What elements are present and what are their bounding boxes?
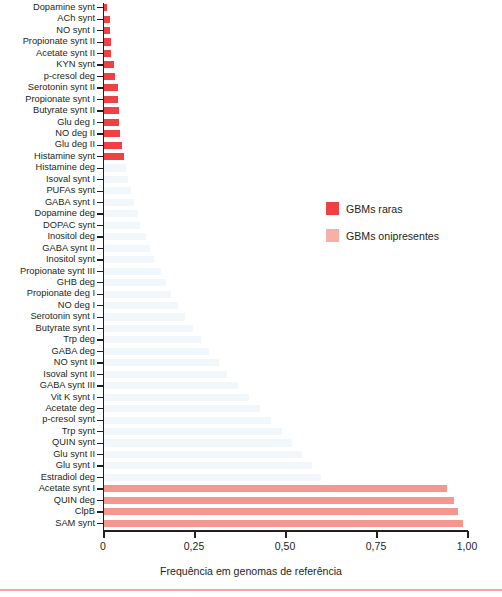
bar-row [103,519,467,528]
bar [103,199,134,206]
y-axis-tick-label: NO synt I [0,26,95,35]
y-axis-tick-label: QUIN synt [0,438,95,447]
y-axis-tick-mark [97,168,103,169]
y-axis-tick-label: Serotonin synt I [0,312,95,321]
y-axis-tick-mark [97,465,103,466]
y-axis-tick-mark [97,42,103,43]
y-axis-tick-label: ACh synt [0,14,95,23]
bar-row [103,438,467,447]
bar [103,394,249,401]
y-axis-tick-label: PUFAs synt [0,186,95,195]
y-axis-tick-label: Acetate synt I [0,484,95,493]
y-axis-tick-label: Butyrate synt II [0,106,95,115]
y-axis-tick-mark [97,374,103,375]
bar-row [103,484,467,493]
y-axis-tick-mark [97,64,103,65]
bar [103,84,118,91]
y-axis-tick-mark [97,317,103,318]
y-axis-tick-mark [97,397,103,398]
y-axis-tick-label: Glu deg I [0,118,95,127]
x-axis-tick-label: 0,50 [275,540,295,552]
bar [103,153,124,160]
y-axis-tick-label: Estradiol deg [0,473,95,482]
bar [103,336,201,343]
y-axis-tick-mark [97,420,103,421]
bar [103,142,122,149]
bar-row [103,255,467,264]
bar [103,405,260,412]
bar-row [103,49,467,58]
bar-row [103,14,467,23]
y-axis-tick-label: Propionate synt II [0,37,95,46]
y-axis-tick-mark [97,305,103,306]
bar [103,382,238,389]
y-axis-tick-mark [97,30,103,31]
bar-row [103,461,467,470]
y-axis-tick-label: GHB deg [0,278,95,287]
y-axis-tick-mark [97,202,103,203]
bar-row [103,106,467,115]
bar [103,176,128,183]
legend-swatch-icon-raras [326,202,339,215]
bar [103,279,166,286]
y-axis-tick-mark [97,19,103,20]
bar-row [103,358,467,367]
y-axis-tick-label: Dopamine deg [0,209,95,218]
chart-legend: GBMs raras GBMs onipresentes [326,202,439,256]
y-axis-tick-label: Histamine deg [0,163,95,172]
y-axis-tick-mark [97,7,103,8]
y-axis-tick-label: NO deg II [0,129,95,138]
bar [103,130,120,137]
bar-row [103,72,467,81]
bar [103,520,463,527]
x-axis-tick-label: 0 [100,540,106,552]
y-axis-tick-mark [97,351,103,352]
bar [103,417,271,424]
y-axis-tick-label: NO deg I [0,301,95,310]
x-axis-tick-mark [103,531,105,538]
y-axis-tick-label: Glu synt II [0,450,95,459]
bar-row [103,83,467,92]
plot-area [103,3,467,530]
y-axis-tick-mark [97,110,103,111]
bar-row [103,335,467,344]
bar-row [103,26,467,35]
bar [103,96,118,103]
y-axis-tick-label: Dopamine synt [0,3,95,12]
y-axis-tick-label: QUIN deg [0,496,95,505]
bar [103,245,150,252]
y-axis-tick-label: Glu deg II [0,140,95,149]
legend-item-gbms-onipresentes: GBMs onipresentes [326,229,439,242]
y-axis-tick-mark [97,191,103,192]
y-axis-tick-label: Trp synt [0,427,95,436]
x-axis-tick-mark [194,531,196,538]
bar-row [103,312,467,321]
bar [103,61,114,68]
y-axis-tick-mark [97,500,103,501]
bar [103,291,171,298]
bar [103,256,154,263]
bar [103,222,140,229]
bar [103,371,227,378]
bar [103,451,302,458]
bar-row [103,404,467,413]
bar [103,164,126,171]
bar [103,210,138,217]
y-axis-tick-label: Acetate deg [0,404,95,413]
bar-row [103,3,467,12]
y-axis-tick-mark [97,156,103,157]
bar [103,302,178,309]
bar-row [103,301,467,310]
y-axis-tick-mark [97,179,103,180]
bar-row [103,129,467,138]
y-axis-tick-mark [97,248,103,249]
bar-row [103,370,467,379]
bar [103,348,209,355]
y-axis-tick-mark [97,339,103,340]
y-axis-tick-mark [97,362,103,363]
bar [103,474,321,481]
y-axis-line [103,3,104,530]
y-axis-tick-label: ClpB [0,507,95,516]
y-axis-tick-label: p-cresol synt [0,415,95,424]
bar-row [103,289,467,298]
